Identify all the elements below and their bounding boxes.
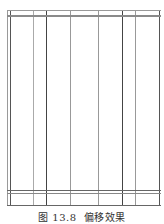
horizontal-line (7, 193, 161, 194)
horizontal-line (7, 15, 161, 17)
vertical-line (70, 10, 71, 206)
vertical-line (10, 10, 11, 206)
vertical-line (7, 10, 8, 206)
vertical-line (33, 10, 34, 206)
figure-caption: 图 13.8 偏移效果 (0, 209, 164, 224)
horizontal-line (7, 205, 161, 206)
horizontal-line (7, 190, 161, 191)
vertical-line (46, 10, 47, 206)
vertical-line (159, 10, 160, 206)
vertical-line (98, 10, 99, 206)
offset-effect-figure: 图 13.8 偏移效果 (0, 0, 164, 224)
vertical-line (135, 10, 136, 206)
horizontal-line (7, 10, 161, 11)
vertical-line (122, 10, 123, 206)
